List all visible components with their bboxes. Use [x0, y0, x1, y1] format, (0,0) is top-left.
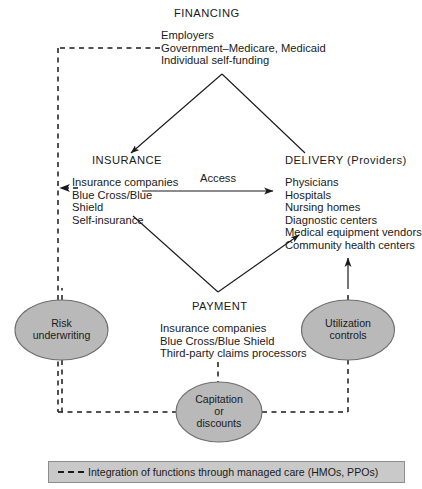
insurance-item-2: Shield	[72, 201, 103, 214]
payment-item-2: Third-party claims processors	[160, 347, 307, 360]
edge-insurance-to-payment	[133, 216, 218, 292]
delivery-item-4: Medical equipment vendors	[285, 226, 422, 239]
edge-financing-to-delivery	[222, 74, 305, 153]
insurance-item-3: Self-insurance	[72, 214, 144, 227]
financing-item-1: Government–Medicare, Medicaid	[161, 42, 326, 55]
payment-heading: PAYMENT	[192, 300, 248, 313]
payment-item-1: Blue Cross/Blue Shield	[160, 335, 274, 348]
oval-label-capitation-or-discounts: Capitation or discounts	[164, 393, 274, 430]
access-edge-label: Access	[200, 172, 236, 185]
delivery-item-0: Physicians	[285, 176, 338, 189]
payment-item-0: Insurance companies	[160, 322, 266, 335]
financing-item-0: Employers	[161, 29, 214, 42]
delivery-item-3: Diagnostic centers	[285, 214, 377, 227]
financing-item-2: Individual self-funding	[161, 54, 269, 67]
legend-dash-swatch	[58, 471, 84, 473]
insurance-item-1: Blue Cross/Blue	[72, 189, 152, 202]
financing-heading: FINANCING	[174, 7, 240, 20]
oval-label-risk-underwriting: Risk underwriting	[7, 317, 117, 341]
delivery-heading: DELIVERY (Providers)	[285, 154, 407, 167]
insurance-item-0: Insurance companies	[72, 176, 178, 189]
delivery-item-5: Community health centers	[285, 239, 415, 252]
insurance-heading: INSURANCE	[92, 154, 162, 167]
edge-financing-to-insurance	[131, 74, 222, 153]
oval-label-utilization-controls: Utilization controls	[293, 317, 403, 341]
delivery-item-1: Hospitals	[285, 189, 331, 202]
legend-text: Integration of functions through managed…	[88, 466, 378, 478]
delivery-item-2: Nursing homes	[285, 201, 360, 214]
